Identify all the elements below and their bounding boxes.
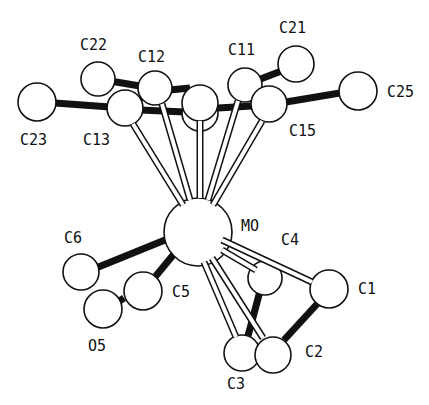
open-bond-fill <box>133 124 183 205</box>
ortep-drawing: C23C22C12C13C11C21C15C25MOC6C5O5C4C1C3C2 <box>0 0 429 405</box>
atom-c5 <box>124 272 162 310</box>
atom-c12 <box>138 71 172 105</box>
atom-c6 <box>63 254 99 290</box>
atom-c2 <box>255 337 291 373</box>
atom-label-c21: C21 <box>279 19 306 37</box>
solid-bond <box>286 93 340 102</box>
atom-label-c12: C12 <box>138 48 165 66</box>
atom-label-c4: C4 <box>281 231 299 249</box>
solid-bond <box>284 303 318 340</box>
atom-c22 <box>81 62 115 96</box>
atom-c14 <box>182 85 218 121</box>
atom-label-c23: C23 <box>20 131 47 149</box>
molecule-diagram: C23C22C12C13C11C21C15C25MOC6C5O5C4C1C3C2 <box>0 0 429 405</box>
atom-mo <box>164 198 232 266</box>
atom-label-c13: C13 <box>83 131 110 149</box>
solid-bond <box>55 103 110 107</box>
solid-bond <box>96 240 165 268</box>
atom-c25 <box>339 72 377 110</box>
atom-label-c25: C25 <box>387 83 414 101</box>
atom-c21 <box>278 46 314 82</box>
atom-label-c3: C3 <box>227 375 245 393</box>
atom-label-c11: C11 <box>228 41 255 59</box>
atom-label-c6: C6 <box>64 229 82 247</box>
atom-c1 <box>310 270 348 308</box>
atom-label-c2: C2 <box>305 343 323 361</box>
atom-label-mo: MO <box>241 217 259 235</box>
atom-label-c1: C1 <box>358 280 376 298</box>
atom-o5 <box>84 290 122 328</box>
atom-c23 <box>18 83 56 121</box>
atom-label-o5: O5 <box>88 337 106 355</box>
atom-label-c5: C5 <box>172 283 190 301</box>
atom-label-c15: C15 <box>289 122 316 140</box>
atom-c15 <box>251 86 287 122</box>
atom-label-c22: C22 <box>80 36 107 54</box>
atom-c13 <box>107 90 143 126</box>
